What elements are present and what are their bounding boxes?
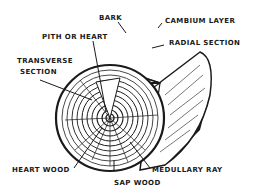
label-radial-section: RADIAL SECTION [169, 39, 240, 47]
label-sap-wood: SAP WOOD [114, 179, 161, 187]
label-transverse-section-line1: TRANSVERSE [17, 57, 73, 65]
label-transverse-section-line2: SECTION [20, 68, 57, 76]
label-bark: BARK [99, 14, 122, 22]
label-cambium-layer: CAMBIUM LAYER [165, 17, 235, 25]
label-pith-or-heart: PITH OR HEART [42, 33, 108, 41]
wood-structure-diagram: BARK CAMBIUM LAYER PITH OR HEART RADIAL … [0, 0, 258, 196]
label-medullary-ray: MEDULLARY RAY [152, 166, 223, 174]
label-heart-wood: HEART WOOD [12, 166, 70, 174]
